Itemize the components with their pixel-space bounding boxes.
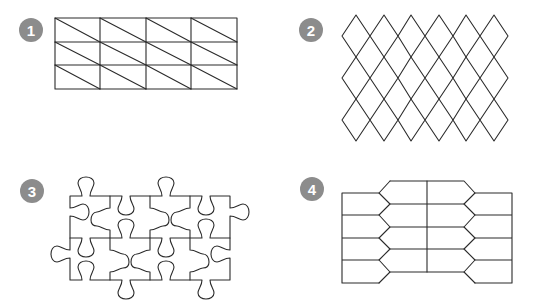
panel-2-diamond-grid <box>342 15 508 141</box>
panel-1-triangle-grid <box>55 18 237 89</box>
panel-3-puzzle-grid <box>51 177 249 299</box>
badge-2-label: 2 <box>307 22 315 39</box>
badge-3: 3 <box>20 179 44 203</box>
badge-4-label: 4 <box>308 181 317 198</box>
badge-1-label: 1 <box>27 22 35 39</box>
tessellation-figure: 1 2 3 4 <box>0 0 533 306</box>
badge-3-label: 3 <box>28 183 36 200</box>
panel-4-hexagon-grid <box>342 181 512 283</box>
badge-2: 2 <box>299 18 323 42</box>
badge-4: 4 <box>300 177 324 201</box>
badge-1: 1 <box>19 18 43 42</box>
